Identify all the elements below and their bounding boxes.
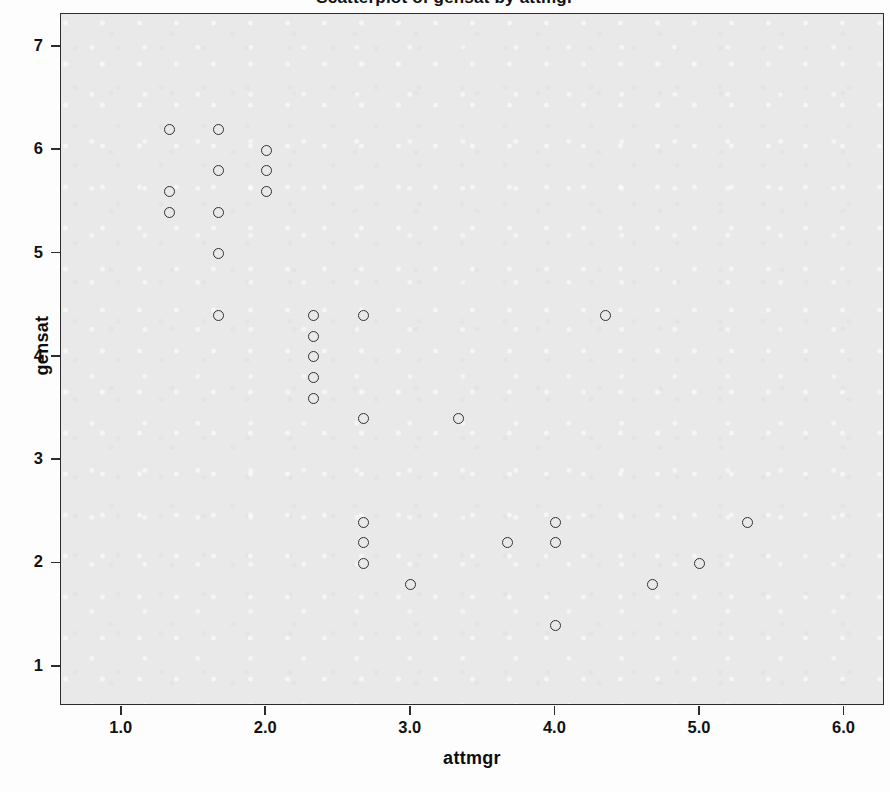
data-point (550, 517, 561, 528)
y-tick-label: 5 (3, 243, 43, 262)
data-point (308, 372, 319, 383)
scatter-plot-figure: and the work that is carried out in the … (0, 0, 890, 792)
data-point (502, 537, 513, 548)
data-point (213, 248, 224, 259)
paper-grain-texture (61, 14, 883, 704)
data-point (647, 579, 658, 590)
data-point (308, 351, 319, 362)
x-tick-label: 5.0 (669, 718, 729, 737)
x-tick-mark (409, 706, 411, 715)
y-tick-mark (51, 562, 60, 564)
y-tick-label: 2 (3, 552, 43, 571)
data-point (358, 517, 369, 528)
data-point (261, 186, 272, 197)
data-point (164, 207, 175, 218)
data-point (358, 537, 369, 548)
data-point (358, 413, 369, 424)
data-point (308, 331, 319, 342)
x-tick-mark (698, 706, 700, 715)
x-tick-label: 6.0 (814, 718, 874, 737)
x-tick-label: 3.0 (380, 718, 440, 737)
data-point (405, 579, 416, 590)
x-tick-mark (843, 706, 845, 715)
data-point (261, 165, 272, 176)
data-point (694, 558, 705, 569)
y-tick-mark (51, 458, 60, 460)
plot-area (60, 13, 884, 705)
data-point (308, 393, 319, 404)
data-point (550, 537, 561, 548)
y-tick-label: 7 (3, 36, 43, 55)
data-point (742, 517, 753, 528)
data-point (358, 558, 369, 569)
x-tick-label: 2.0 (235, 718, 295, 737)
x-tick-mark (264, 706, 266, 715)
x-axis-label: attmgr (60, 748, 884, 769)
data-point (164, 186, 175, 197)
data-point (213, 124, 224, 135)
y-tick-mark (51, 665, 60, 667)
y-tick-label: 3 (3, 449, 43, 468)
data-point (600, 310, 611, 321)
data-point (213, 207, 224, 218)
x-tick-label: 1.0 (91, 718, 151, 737)
y-tick-mark (51, 148, 60, 150)
x-tick-label: 4.0 (524, 718, 584, 737)
data-point (550, 620, 561, 631)
y-tick-mark (51, 252, 60, 254)
x-tick-mark (120, 706, 122, 715)
data-point (261, 145, 272, 156)
y-tick-mark (51, 45, 60, 47)
y-tick-label: 1 (3, 656, 43, 675)
data-point (308, 310, 319, 321)
y-tick-label: 6 (3, 139, 43, 158)
data-point (213, 310, 224, 321)
data-point (453, 413, 464, 424)
data-point (213, 165, 224, 176)
chart-title: Scatterplot of gensat by attmgr (0, 0, 890, 8)
data-point (358, 310, 369, 321)
data-point (164, 124, 175, 135)
y-axis-label: gensat (32, 286, 53, 406)
x-tick-mark (554, 706, 556, 715)
